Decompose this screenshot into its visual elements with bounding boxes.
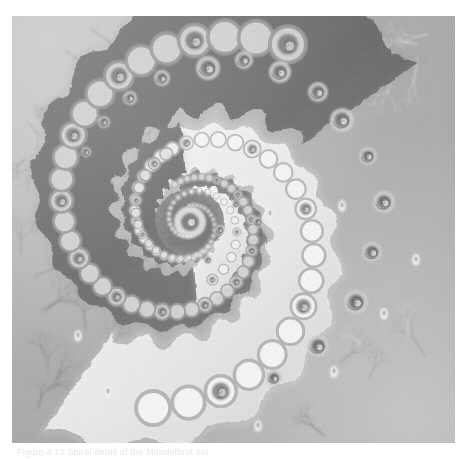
figure-caption: Figure 4.13 Spiral detail of the Mandelb… [17,447,247,458]
figure-container: Figure 4.13 Spiral detail of the Mandelb… [0,0,469,459]
film-grain-layer [12,16,455,443]
fractal-svg [12,16,455,443]
fractal-image [12,16,455,443]
